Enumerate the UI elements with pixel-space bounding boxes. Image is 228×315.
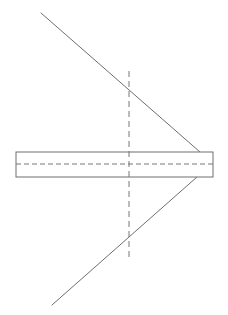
sketch-canvas: [0, 0, 228, 315]
upper-diagonal-line: [41, 13, 200, 152]
lower-diagonal-line: [52, 177, 197, 305]
sketch-drawing: [0, 0, 228, 315]
